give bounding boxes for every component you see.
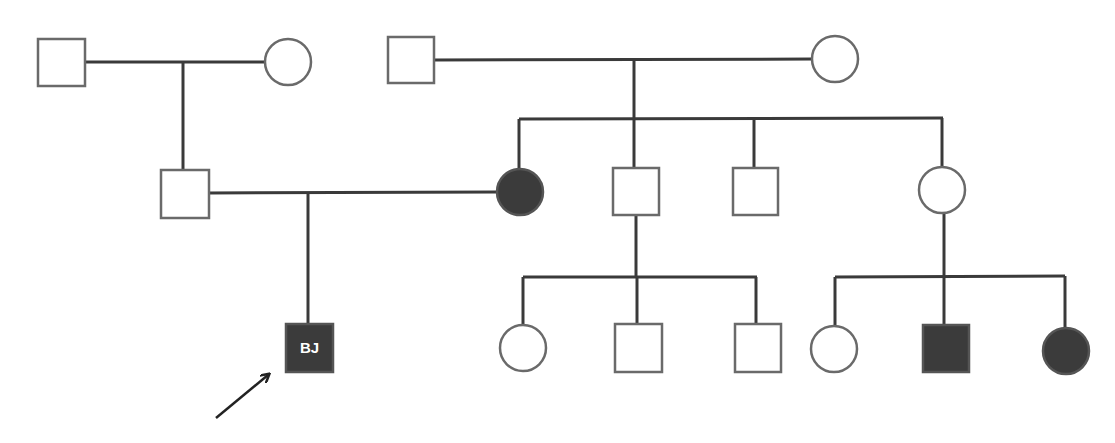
female-affected-III7 [1043,328,1089,374]
marriage-line-I3-I4 [434,59,812,60]
male-unaffected-II4 [733,168,778,215]
male-affected-III6 [923,325,969,372]
female-affected-II2 [497,169,543,215]
proband-arrow-icon [216,375,268,418]
female-unaffected-III2 [500,325,546,371]
female-unaffected-I4 [812,36,858,82]
sibship-line-III-b [835,276,1065,277]
proband-label: BJ [300,339,319,356]
sibship-line-II [519,118,943,119]
marriage-line-II1-II2 [209,192,497,193]
male-unaffected-II1 [161,170,209,218]
generation-1-lines [85,59,943,170]
female-unaffected-II5 [919,167,965,213]
male-unaffected-I3 [388,37,434,83]
male-unaffected-III3 [615,324,662,372]
male-unaffected-I1 [38,39,85,86]
female-unaffected-I2 [265,39,311,85]
male-unaffected-II3 [613,168,659,215]
male-unaffected-III4 [735,324,781,372]
female-unaffected-III5 [811,326,857,372]
pedigree-chart: BJ [0,0,1115,443]
